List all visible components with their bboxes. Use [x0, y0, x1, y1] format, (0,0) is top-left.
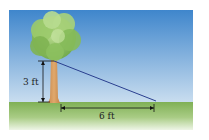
- tree-height-label: 3 ft: [23, 77, 39, 87]
- shadow-length-label: 6 ft: [99, 111, 115, 121]
